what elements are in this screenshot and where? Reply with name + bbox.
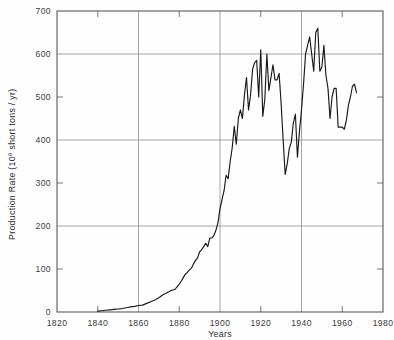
gridlines [57,11,383,312]
x-tick-label: 1820 [47,318,68,328]
y-tick-label: 100 [35,264,51,274]
y-tick-label: 700 [35,6,51,16]
x-tick-label: 1940 [291,318,312,328]
coal-production-line-chart: 0100200300400500600700 18201840186018801… [0,0,394,340]
y-axis-title-post: short tons / yr) [7,89,17,153]
x-tick-label: 1860 [128,318,149,328]
x-axis-title: Years [208,329,232,339]
x-tick-label: 1980 [373,318,394,328]
x-tick-label: 1840 [87,318,108,328]
x-axis-tick-labels: 182018401860188019001920194019601980 [47,318,394,328]
y-tick-label: 400 [35,135,51,145]
y-axis-tick-labels: 0100200300400500600700 [35,6,51,317]
chart-figure: 0100200300400500600700 18201840186018801… [0,0,394,340]
y-tick-label: 0 [46,307,51,317]
y-tick-label: 500 [35,92,51,102]
y-tick-label: 200 [35,221,51,231]
data-series-line [98,28,357,311]
y-tick-label: 300 [35,178,51,188]
x-tick-label: 1900 [210,318,231,328]
x-tick-label: 1960 [332,318,353,328]
y-axis-title-unit-base: 10 [7,156,17,166]
y-tick-label: 600 [35,49,51,59]
y-axis-title: Production Rate (106 short tons / yr) [6,89,17,240]
x-tick-label: 1880 [169,318,190,328]
y-axis-title-pre: Production Rate ( [7,166,17,240]
x-tick-label: 1920 [250,318,271,328]
